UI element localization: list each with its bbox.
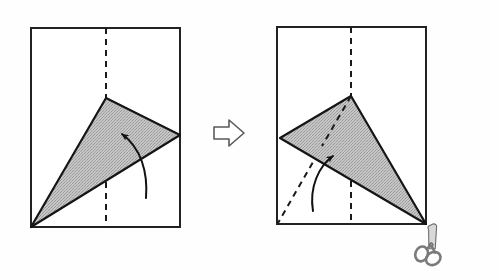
- origami-instruction-figure: Origami fold instruction diagram Two rec…: [0, 0, 499, 279]
- step-1-group: [31, 28, 180, 227]
- figure-canvas: [0, 0, 499, 279]
